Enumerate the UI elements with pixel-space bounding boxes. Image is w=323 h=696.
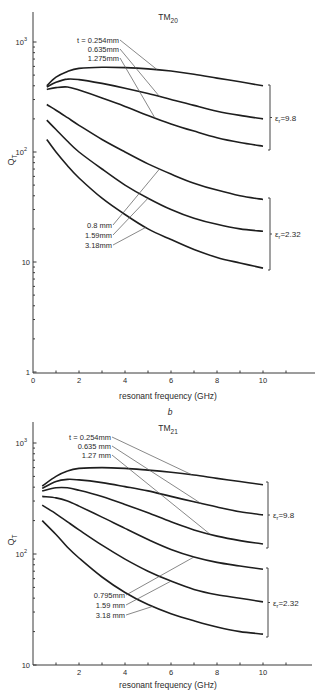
permittivity-label: εr=9.8	[273, 511, 295, 521]
series-curve-0	[47, 67, 263, 86]
y-tick-label: 103	[16, 36, 27, 47]
group-bracket	[266, 568, 268, 637]
thickness-label: 3.18mm	[85, 241, 112, 250]
x-tick-label: 6	[169, 668, 173, 677]
x-tick-label: 10	[259, 376, 267, 385]
leader-line	[112, 455, 210, 534]
thickness-label: 0.635mm	[88, 45, 119, 54]
series-curve-4	[42, 505, 263, 602]
leader-line	[126, 606, 153, 615]
thickness-label: 0.795mm	[94, 591, 125, 600]
thickness-label: 1.275mm	[88, 54, 119, 63]
thickness-label: t = 0.254mm	[77, 36, 119, 45]
y-tick-label: 102	[16, 548, 27, 559]
thickness-label: 0.8 mm	[87, 221, 112, 230]
thickness-label: 1.27 mm	[82, 451, 111, 460]
thickness-label: 1.59 mm	[96, 601, 125, 610]
series-curve-3	[42, 496, 263, 569]
figure: TM20 QT 0246810110102103 t = 0.254mm0.63…	[0, 0, 323, 696]
x-tick-label: 0	[31, 376, 35, 385]
y-tick-label: 102	[16, 146, 27, 157]
leader-line	[113, 169, 160, 225]
y-tick-label: 10	[22, 661, 30, 670]
data-curves	[42, 468, 263, 634]
x-tick-label: 8	[215, 376, 219, 385]
series-curve-2	[42, 487, 263, 544]
x-tick-label: 8	[215, 668, 219, 677]
chart-panel-tm21: TM21 QT 24681010102103 t = 0.254mm0.635 …	[6, 422, 312, 690]
chart-title: TM21	[158, 423, 178, 435]
x-axis-label: resonant frequency (GHz)	[119, 680, 217, 690]
permittivity-label: εr=2.32	[273, 599, 299, 609]
x-tick-label: 2	[77, 668, 81, 677]
panel-label-b: b	[168, 407, 173, 417]
series-curve-4	[47, 120, 263, 231]
group-bracket	[268, 85, 270, 150]
permittivity-label: εr=2.32	[275, 230, 301, 240]
x-tick-label: 10	[259, 668, 267, 677]
x-tick-label: 6	[169, 376, 173, 385]
data-curves	[47, 67, 263, 268]
annotations: t = 0.254mm0.635mm1.275mm0.8 mm1.59mm3.1…	[77, 36, 301, 270]
series-curve-0	[42, 468, 263, 486]
y-tick-label: 1	[26, 368, 30, 377]
y-axis-label: QT	[6, 534, 18, 545]
thickness-label: t = 0.254mm	[69, 433, 111, 442]
leader-line	[126, 557, 194, 595]
axes: 24681010102103	[16, 422, 312, 677]
series-curve-1	[47, 79, 263, 119]
series-curve-1	[42, 479, 263, 515]
x-tick-label: 2	[77, 376, 81, 385]
thickness-label: 1.59mm	[85, 231, 112, 240]
x-tick-label: 4	[123, 376, 127, 385]
chart-panel-tm20: TM20 QT 0246810110102103 t = 0.254mm0.63…	[6, 12, 315, 401]
group-bracket	[268, 198, 270, 270]
y-tick-label: 10	[22, 258, 30, 267]
chart-title: TM20	[158, 12, 178, 24]
series-curve-5	[47, 140, 263, 269]
group-bracket	[266, 482, 268, 548]
y-tick-label: 103	[16, 437, 27, 448]
permittivity-label: εr=9.8	[275, 114, 297, 124]
x-axis-label: resonant frequency (GHz)	[119, 391, 217, 401]
series-curve-5	[42, 521, 263, 635]
thickness-label: 3.18 mm	[96, 611, 125, 620]
annotations: t = 0.254mm0.635 mm1.27 mm0.795mm1.59 mm…	[69, 433, 299, 637]
leader-line	[126, 581, 171, 605]
thickness-label: 0.635 mm	[78, 442, 111, 451]
x-tick-label: 4	[123, 668, 127, 677]
leader-line	[120, 40, 157, 70]
